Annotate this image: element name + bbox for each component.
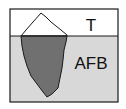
iceberg-diagram: T AFB [0, 0, 126, 109]
bottom-label: AFB [74, 54, 107, 73]
top-label: T [86, 16, 96, 35]
